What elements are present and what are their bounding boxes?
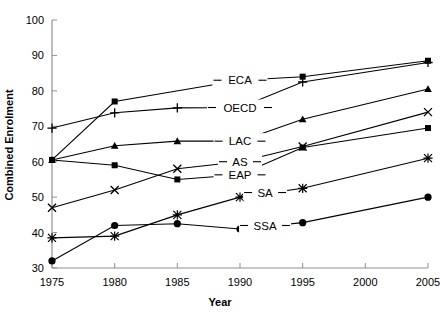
y-tick-label: 70	[32, 120, 44, 132]
series-label-text: OECD	[223, 102, 256, 114]
x-tick-label: 1980	[102, 276, 126, 288]
x-tick-label: 1990	[228, 276, 252, 288]
marker-square	[300, 145, 306, 151]
marker-square	[425, 125, 431, 131]
series-label-lac: LAC	[214, 133, 267, 149]
series-label-sa: SA	[243, 185, 287, 201]
marker-circle	[174, 220, 181, 227]
marker-star	[298, 184, 307, 193]
y-tick-label: 80	[32, 85, 44, 97]
marker-circle	[424, 194, 431, 201]
marker-square	[49, 157, 55, 163]
series-label-text: SSA	[254, 220, 277, 232]
y-tick-label: 100	[26, 14, 44, 26]
series-label-text: SA	[257, 187, 273, 199]
x-tick-label: 1985	[165, 276, 189, 288]
line-chart: 30405060708090100 1975198019851990199520…	[0, 0, 440, 312]
x-axis-title: Year	[208, 296, 232, 308]
chart-canvas: 30405060708090100 1975198019851990199520…	[0, 0, 440, 312]
series-label-text: AS	[232, 156, 248, 168]
marker-square	[112, 98, 118, 104]
marker-star	[47, 233, 56, 242]
marker-square	[174, 176, 180, 182]
y-tick-label: 40	[32, 227, 44, 239]
marker-circle	[111, 222, 118, 229]
series-label-eap: EAP	[214, 167, 267, 183]
x-tick-label: 2000	[353, 276, 377, 288]
series-label-eca: ECA	[213, 72, 268, 88]
marker-circle	[48, 257, 55, 264]
x-tick-label: 2005	[416, 276, 440, 288]
marker-square	[112, 162, 118, 168]
series-label-text: ECA	[228, 74, 252, 86]
y-tick-label: 60	[32, 156, 44, 168]
series-label-text: EAP	[228, 169, 251, 181]
y-tick-label: 50	[32, 191, 44, 203]
y-axis-title: Combined Enrolment	[3, 89, 15, 201]
marker-circle	[299, 219, 306, 226]
x-tick-label: 1975	[40, 276, 64, 288]
y-tick-label: 30	[32, 262, 44, 274]
series-label-oecd: OECD	[207, 100, 273, 116]
series-label-text: LAC	[229, 135, 251, 147]
marker-star	[110, 232, 119, 241]
marker-star	[423, 154, 432, 163]
marker-star	[173, 210, 182, 219]
y-tick-label: 90	[32, 49, 44, 61]
x-tick-label: 1995	[290, 276, 314, 288]
series-label-ssa: SSA	[239, 217, 291, 233]
